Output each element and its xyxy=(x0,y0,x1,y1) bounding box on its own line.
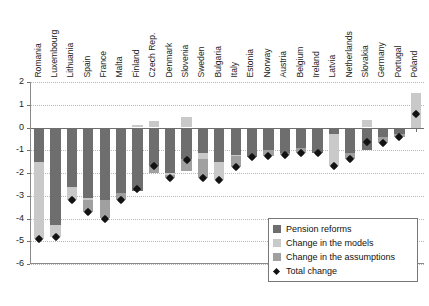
y-axis-tick-label: -2 xyxy=(2,168,24,177)
x-axis-label-france: France xyxy=(99,51,108,78)
x-axis-tick-mark xyxy=(154,128,155,132)
x-axis-tick-mark xyxy=(203,128,204,132)
bar-segment xyxy=(181,128,191,160)
x-axis-label-romania: Romania xyxy=(34,44,43,78)
x-axis-label-latvia: Latvia xyxy=(329,55,338,78)
x-axis-label-norway: Norway xyxy=(263,49,272,78)
x-axis-tick-mark xyxy=(72,128,73,132)
x-axis-label-sweden: Sweden xyxy=(198,47,207,78)
y-axis-tick-label: -3 xyxy=(2,191,24,200)
bar-segment xyxy=(34,162,44,239)
x-axis-label-belgium: Belgium xyxy=(296,47,305,78)
x-axis-tick-mark xyxy=(170,128,171,132)
bar-segment xyxy=(214,128,224,162)
x-axis-tick-mark xyxy=(399,128,400,132)
x-axis-tick-mark xyxy=(301,128,302,132)
stacked-bar-chart: 210-1-2-3-4-5-6 RomaniaLuxembourgLithuan… xyxy=(0,0,429,306)
bar-segment xyxy=(67,128,77,187)
x-axis-tick-mark xyxy=(268,128,269,132)
x-axis-label-slovenia: Slovenia xyxy=(181,45,190,78)
bar-segment xyxy=(116,128,126,194)
x-axis-label-germany: Germany xyxy=(378,43,387,78)
x-axis-tick-mark xyxy=(121,128,122,132)
x-axis-label-spain: Spain xyxy=(83,56,92,78)
y-axis-tick-label: -4 xyxy=(2,214,24,223)
x-axis-tick-mark xyxy=(416,128,417,132)
legend-swatch-pension-reforms xyxy=(273,225,281,233)
bar-group xyxy=(181,82,191,264)
y-axis-tick-label: -5 xyxy=(2,236,24,245)
x-axis-label-malta: Malta xyxy=(116,57,125,78)
chart-legend: Pension reforms Change in the models Cha… xyxy=(268,218,418,282)
x-axis-tick-mark xyxy=(39,128,40,132)
bar-segment xyxy=(50,128,60,226)
legend-marker-total-change-diamond-icon xyxy=(273,267,281,275)
bar-segment xyxy=(198,153,208,160)
x-axis-label-netherlands: Netherlands xyxy=(345,32,354,78)
legend-swatch-change-in-the-models xyxy=(273,239,281,247)
x-axis-label-lithuania: Lithuania xyxy=(67,43,76,78)
x-axis-tick-mark xyxy=(219,128,220,132)
bar-group xyxy=(231,82,241,264)
bar-group xyxy=(247,82,257,264)
bar-segment xyxy=(231,128,241,155)
bar-segment xyxy=(362,120,372,128)
x-axis-label-slovakia: Slovakia xyxy=(361,46,370,78)
legend-label-total-change: Total change xyxy=(286,267,337,276)
bar-segment xyxy=(34,128,44,162)
bar-group xyxy=(132,82,142,264)
y-axis-tick-label: 1 xyxy=(2,100,24,109)
x-axis-label-bulgaria: Bulgaria xyxy=(214,46,223,78)
bar-group xyxy=(214,82,224,264)
bar-segment xyxy=(100,128,110,201)
bar-group xyxy=(116,82,126,264)
x-axis-label-finland: Finland xyxy=(132,50,141,78)
bar-segment xyxy=(149,121,159,128)
x-axis-category-labels: RomaniaLuxembourgLithuaniaSpainFranceMal… xyxy=(31,0,424,80)
y-axis-tick-label: 0 xyxy=(2,123,24,132)
x-axis-tick-mark xyxy=(236,128,237,132)
x-axis-tick-mark xyxy=(56,128,57,132)
x-axis-label-czech-rep: Czech Rep. xyxy=(149,33,158,78)
x-axis-tick-mark xyxy=(350,128,351,132)
legend-label-change-in-the-assumptions: Change in the assumptions xyxy=(286,253,395,262)
x-axis-label-luxembourg: Luxembourg xyxy=(50,30,59,78)
legend-item-total-change: Total change xyxy=(273,264,413,278)
bar-segment xyxy=(181,117,191,127)
x-axis-label-poland: Poland xyxy=(411,51,420,78)
y-axis-tick-label: -1 xyxy=(2,145,24,154)
bar-segment xyxy=(83,128,93,199)
x-axis-label-ireland: Ireland xyxy=(312,52,321,78)
x-axis-label-portugal: Portugal xyxy=(394,46,403,78)
bar-group xyxy=(83,82,93,264)
bar-segment xyxy=(165,128,175,174)
x-axis-tick-mark xyxy=(137,128,138,132)
legend-swatch-change-in-the-assumptions xyxy=(273,253,281,261)
legend-label-change-in-the-models: Change in the models xyxy=(286,239,374,248)
x-axis-tick-mark xyxy=(252,128,253,132)
x-axis-tick-mark xyxy=(88,128,89,132)
x-axis-label-italy: Italy xyxy=(230,62,239,78)
bar-group xyxy=(149,82,159,264)
bar-segment xyxy=(149,128,159,167)
x-axis-tick-mark xyxy=(334,128,335,132)
y-axis-tick-mark xyxy=(27,264,30,265)
bar-group xyxy=(100,82,110,264)
legend-item-change-in-the-assumptions: Change in the assumptions xyxy=(273,250,413,264)
x-axis-label-denmark: Denmark xyxy=(165,43,174,78)
x-axis-label-estonia: Estonia xyxy=(247,49,256,78)
x-axis-tick-mark xyxy=(318,128,319,132)
x-axis-tick-mark xyxy=(105,128,106,132)
legend-item-pension-reforms: Pension reforms xyxy=(273,222,413,236)
bar-segment xyxy=(132,128,142,192)
x-axis-tick-mark xyxy=(285,128,286,132)
y-axis-tick-label: -6 xyxy=(2,259,24,268)
x-axis-tick-mark xyxy=(367,128,368,132)
legend-label-pension-reforms: Pension reforms xyxy=(286,225,352,234)
x-axis-label-austria: Austria xyxy=(280,51,289,78)
x-axis-tick-mark xyxy=(187,128,188,132)
y-axis: 210-1-2-3-4-5-6 xyxy=(0,82,30,264)
y-axis-tick-label: 2 xyxy=(2,77,24,86)
bar-group xyxy=(67,82,77,264)
legend-item-change-in-the-models: Change in the models xyxy=(273,236,413,250)
